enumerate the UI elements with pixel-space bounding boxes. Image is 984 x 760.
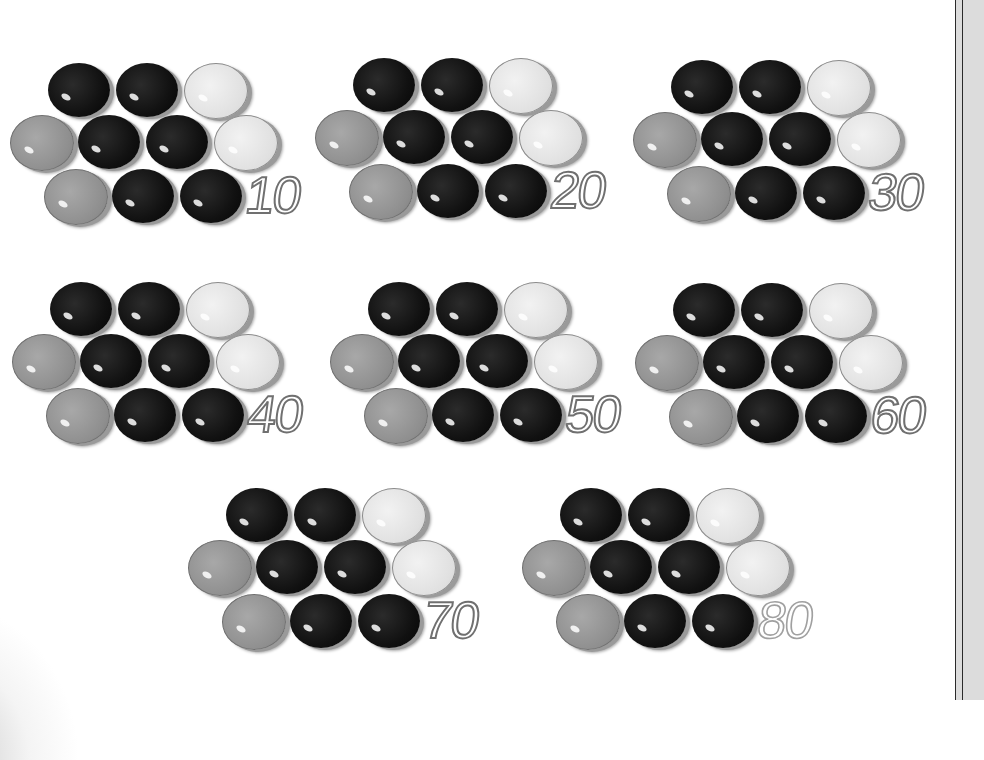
- grey-counter-icon: [635, 335, 699, 391]
- black-counter-icon: [48, 63, 110, 117]
- black-counter-icon: [805, 389, 867, 443]
- black-counter-icon: [383, 110, 445, 164]
- light-counter-icon: [392, 540, 456, 596]
- light-counter-icon: [696, 488, 760, 544]
- page-edge-border-line: [962, 0, 963, 700]
- black-counter-icon: [701, 112, 763, 166]
- grey-counter-icon: [46, 388, 110, 444]
- light-counter-icon: [184, 63, 248, 119]
- grey-counter-icon: [364, 388, 428, 444]
- counter-group: 10: [10, 63, 310, 213]
- black-counter-icon: [658, 540, 720, 594]
- grey-counter-icon: [12, 334, 76, 390]
- black-counter-icon: [737, 389, 799, 443]
- light-counter-icon: [837, 112, 901, 168]
- grey-counter-icon: [315, 110, 379, 166]
- group-count-label: 60: [867, 389, 928, 441]
- page-edge-strip: [956, 0, 984, 700]
- page-edge-border-line: [955, 0, 956, 700]
- light-counter-icon: [362, 488, 426, 544]
- light-counter-icon: [216, 334, 280, 390]
- black-counter-icon: [673, 283, 735, 337]
- counter-group: 20: [315, 58, 615, 208]
- grey-counter-icon: [349, 164, 413, 220]
- counter-group: 30: [633, 60, 933, 210]
- black-counter-icon: [368, 282, 430, 336]
- black-counter-icon: [703, 335, 765, 389]
- black-counter-icon: [398, 334, 460, 388]
- grey-counter-icon: [10, 115, 74, 171]
- black-counter-icon: [116, 63, 178, 117]
- black-counter-icon: [417, 164, 479, 218]
- light-counter-icon: [534, 334, 598, 390]
- black-counter-icon: [769, 112, 831, 166]
- group-count-label: 20: [547, 164, 608, 216]
- grey-counter-icon: [522, 540, 586, 596]
- group-count-label: 70: [420, 594, 481, 646]
- black-counter-icon: [180, 169, 242, 223]
- counter-group: 40: [12, 282, 312, 432]
- black-counter-icon: [358, 594, 420, 648]
- light-counter-icon: [489, 58, 553, 114]
- page-corner-shadow: [0, 600, 80, 760]
- black-counter-icon: [741, 283, 803, 337]
- light-counter-icon: [214, 115, 278, 171]
- black-counter-icon: [256, 540, 318, 594]
- black-counter-icon: [692, 594, 754, 648]
- black-counter-icon: [50, 282, 112, 336]
- black-counter-icon: [290, 594, 352, 648]
- group-count-label: 50: [562, 388, 623, 440]
- black-counter-icon: [436, 282, 498, 336]
- black-counter-icon: [112, 169, 174, 223]
- grey-counter-icon: [44, 169, 108, 225]
- black-counter-icon: [432, 388, 494, 442]
- light-counter-icon: [807, 60, 871, 116]
- black-counter-icon: [803, 166, 865, 220]
- grey-counter-icon: [188, 540, 252, 596]
- black-counter-icon: [590, 540, 652, 594]
- black-counter-icon: [671, 60, 733, 114]
- black-counter-icon: [78, 115, 140, 169]
- black-counter-icon: [294, 488, 356, 542]
- black-counter-icon: [624, 594, 686, 648]
- grey-counter-icon: [669, 389, 733, 445]
- grey-counter-icon: [633, 112, 697, 168]
- grey-counter-icon: [222, 594, 286, 650]
- grey-counter-icon: [330, 334, 394, 390]
- light-counter-icon: [809, 283, 873, 339]
- black-counter-icon: [466, 334, 528, 388]
- black-counter-icon: [114, 388, 176, 442]
- group-count-label: 10: [242, 169, 303, 221]
- black-counter-icon: [771, 335, 833, 389]
- light-counter-icon: [504, 282, 568, 338]
- black-counter-icon: [226, 488, 288, 542]
- black-counter-icon: [485, 164, 547, 218]
- black-counter-icon: [146, 115, 208, 169]
- black-counter-icon: [739, 60, 801, 114]
- light-counter-icon: [839, 335, 903, 391]
- group-count-label: 80: [754, 594, 815, 646]
- black-counter-icon: [628, 488, 690, 542]
- black-counter-icon: [353, 58, 415, 112]
- light-counter-icon: [726, 540, 790, 596]
- black-counter-icon: [500, 388, 562, 442]
- black-counter-icon: [182, 388, 244, 442]
- black-counter-icon: [148, 334, 210, 388]
- counter-group: 70: [188, 488, 488, 638]
- group-count-label: 40: [244, 388, 305, 440]
- group-count-label: 30: [865, 166, 926, 218]
- counter-group: 80: [522, 488, 822, 638]
- black-counter-icon: [324, 540, 386, 594]
- light-counter-icon: [519, 110, 583, 166]
- black-counter-icon: [560, 488, 622, 542]
- counter-group: 60: [635, 283, 935, 433]
- black-counter-icon: [421, 58, 483, 112]
- black-counter-icon: [451, 110, 513, 164]
- black-counter-icon: [735, 166, 797, 220]
- black-counter-icon: [80, 334, 142, 388]
- grey-counter-icon: [667, 166, 731, 222]
- grey-counter-icon: [556, 594, 620, 650]
- black-counter-icon: [118, 282, 180, 336]
- light-counter-icon: [186, 282, 250, 338]
